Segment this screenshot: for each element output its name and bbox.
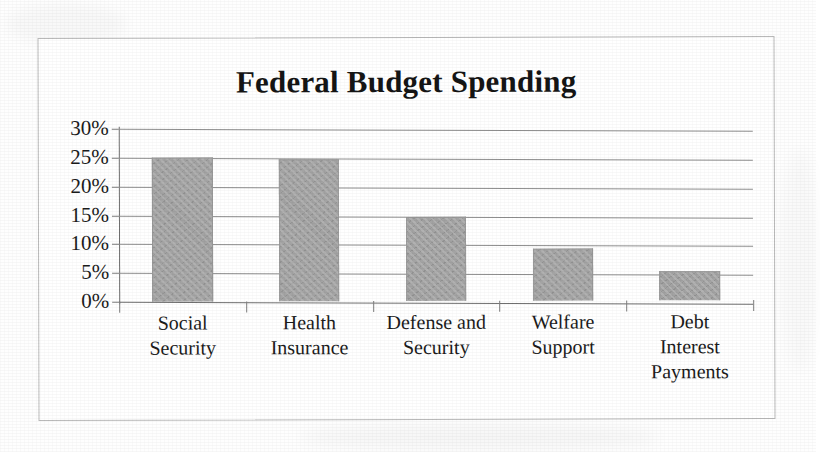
y-axis-tick: [112, 273, 119, 274]
y-axis-tick: [112, 158, 119, 159]
y-axis-tick-label: 5%: [81, 260, 109, 285]
x-axis-category-label-line: Health: [246, 310, 373, 335]
gridline: [119, 158, 753, 161]
bar: [152, 157, 213, 301]
x-axis-category-label: Defense andSecurity: [373, 310, 500, 360]
x-axis-category-label-line: Welfare: [500, 309, 627, 334]
page-smudge: [300, 424, 660, 450]
y-axis-tick-label: 25%: [70, 145, 109, 170]
gridlines-group: [119, 127, 753, 129]
x-axis-category-label-line: Support: [500, 334, 627, 359]
x-axis-category-label-line: Debt: [626, 309, 753, 334]
gridline: [119, 186, 753, 189]
y-axis-tick: [112, 129, 119, 130]
y-axis-tick-label: 10%: [71, 231, 110, 256]
x-axis-category-labels-group: SocialSecurityHealthInsuranceDefense and…: [119, 309, 753, 411]
y-axis-tick-label: 30%: [70, 116, 109, 141]
x-axis-category-label: HealthInsurance: [246, 310, 373, 360]
x-axis-category-label: SocialSecurity: [119, 310, 246, 360]
y-axis-tick: [112, 215, 119, 216]
page-smudge: [780, 150, 820, 370]
axis-baseline: [119, 302, 753, 305]
x-axis-category-label: DebtInterestPayments: [626, 309, 753, 384]
bar: [279, 159, 340, 302]
y-axis-tick: [112, 186, 119, 187]
x-axis-category-label-line: Interest: [626, 334, 753, 359]
y-axis-tick-label: 15%: [70, 202, 109, 227]
y-axis-tick-label: 20%: [70, 173, 109, 198]
bar: [533, 248, 593, 301]
y-axis-tick: [112, 302, 119, 303]
x-axis-category-label-line: Defense and: [373, 310, 500, 335]
x-axis-category-label-line: Security: [373, 335, 500, 360]
x-axis-category-label-line: Social: [119, 310, 246, 335]
x-axis-category-label-line: Insurance: [246, 335, 373, 360]
y-axis-tick: [112, 244, 119, 245]
chart-frame: Federal Budget Spending 30%25%20%15%10%5…: [37, 36, 775, 421]
x-axis-tick: [753, 300, 754, 311]
x-axis-category-label-line: Payments: [627, 359, 754, 384]
chart-title: Federal Budget Spending: [39, 63, 774, 101]
plot-area: 30%25%20%15%10%5%0%: [119, 127, 753, 302]
bar: [406, 217, 466, 301]
x-axis-category-label: WelfareSupport: [500, 309, 627, 359]
bar: [660, 271, 720, 300]
y-axis-tick-label: 0%: [81, 289, 109, 314]
gridline: [119, 129, 753, 132]
x-axis-category-label-line: Security: [119, 335, 246, 360]
